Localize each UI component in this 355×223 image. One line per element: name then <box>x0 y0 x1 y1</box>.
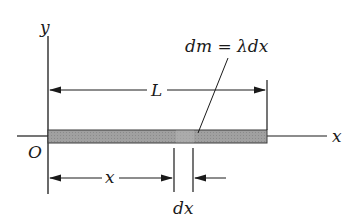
mass-element-dx <box>176 131 194 143</box>
rod-diagram: y x O L dm = λdx x dx <box>0 0 355 223</box>
arrow-right-icon <box>254 87 266 94</box>
x-axis-label: x <box>332 126 342 146</box>
element-dimension <box>193 148 226 192</box>
arrow-left-icon <box>194 175 206 182</box>
arrow-right-icon <box>161 175 173 182</box>
arrow-left-icon <box>49 87 61 94</box>
mass-element-annotation: dm = λdx <box>185 36 269 56</box>
element-width-label: dx <box>173 198 194 218</box>
origin-label: O <box>28 142 42 162</box>
annotation-leader-line <box>198 58 228 133</box>
length-label: L <box>150 80 162 100</box>
rod <box>48 130 267 143</box>
arrow-left-icon <box>49 175 61 182</box>
position-label: x <box>105 167 115 187</box>
y-axis-label: y <box>39 17 50 37</box>
